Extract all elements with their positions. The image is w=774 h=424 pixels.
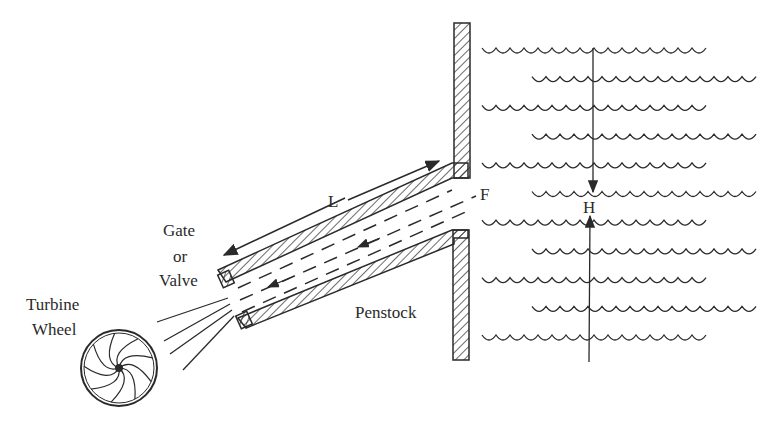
reservoir-water xyxy=(482,48,756,340)
length-label: L xyxy=(328,192,338,211)
gate-label-line3: Valve xyxy=(159,271,198,290)
turbine-label-line2: Wheel xyxy=(32,320,77,339)
dam-wall xyxy=(453,23,470,360)
wave-row xyxy=(482,48,706,53)
head-arrow-up xyxy=(589,216,590,362)
turbine-blade xyxy=(119,368,135,399)
wave-row xyxy=(482,335,706,340)
penstock-label: Penstock xyxy=(355,303,417,322)
wave-row xyxy=(532,134,756,139)
wave-row xyxy=(532,192,756,197)
turbine-wheel xyxy=(81,330,157,406)
turbine-blade xyxy=(91,368,119,389)
penstock-upper-wall xyxy=(218,163,468,282)
water-jet xyxy=(157,298,234,370)
wave-row xyxy=(532,306,756,311)
flow-arrow-2 xyxy=(268,278,290,287)
wave-row xyxy=(532,77,756,82)
gate-label-line2: or xyxy=(173,247,188,266)
head-label: H xyxy=(583,198,595,217)
penstock-pipe xyxy=(218,163,476,329)
wave-row xyxy=(482,278,706,283)
wave-row xyxy=(532,249,756,254)
wave-row xyxy=(482,105,706,110)
diagram-canvas: L F H Gate or Valve Turbine Wheel Pensto… xyxy=(0,0,774,424)
turbine-blade xyxy=(84,366,119,375)
dam-wall-upper xyxy=(454,23,470,178)
gate-label-line1: Gate xyxy=(163,221,195,240)
forebay-label: F xyxy=(480,185,489,204)
wave-row xyxy=(482,220,706,225)
dam-wall-lower xyxy=(453,230,469,360)
flow-arrow-1 xyxy=(358,238,380,247)
turbine-blade xyxy=(111,368,124,402)
diagram-svg: L F H Gate or Valve Turbine Wheel Pensto… xyxy=(0,0,774,424)
wave-row xyxy=(482,163,706,168)
turbine-label-line1: Turbine xyxy=(26,295,79,314)
